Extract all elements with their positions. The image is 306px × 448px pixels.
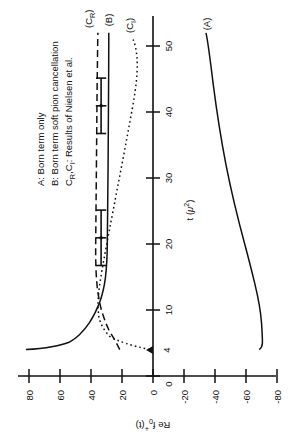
y-tick-label: 40 [86,390,97,401]
curve-label-CI: (CI) [124,18,138,33]
y-axis-title-post: (t) [136,420,145,431]
x-tick-label: 50 [163,41,174,52]
curve-label-B: (B) [103,14,114,27]
x-tick-label: 20 [163,239,174,250]
legend-line-3-sub-r: R [68,174,77,179]
legend-line-3-prefix: C [63,179,74,186]
x-axis-title-main: t ( [184,211,195,220]
curve-label-CI-open: (C [124,23,135,33]
legend-line-3: CR,CI: Results of Nielsen et al. [63,57,77,186]
legend-line-2: B: Born term soft pion cancellation [49,41,60,186]
y-tick-label: -20 [179,390,190,404]
y-axis-title-pre: Re f [153,420,171,431]
curve-label-A: (A) [201,18,212,31]
x-axis-title-close: ) [184,200,195,203]
figure-page: 80 60 40 20 0 -20 -40 -60 -80 Re f0+(t) [0,0,306,448]
y-axis-title: Re f0+(t) [136,417,171,433]
curve-A [206,33,262,350]
x-tick-label: 40 [163,107,174,118]
x-tick-label: 0 [163,381,174,386]
legend-line-3-sub-i: I [68,162,77,164]
x-axis-tick-labels: 0 10 20 30 40 50 [163,41,174,387]
rotated-figure-container: 80 60 40 20 0 -20 -40 -60 -80 Re f0+(t) [0,0,306,448]
threshold-marker-label: 4 [161,347,172,352]
curve-label-CR: (CR) [83,10,97,28]
y-tick-label: 80 [24,390,35,401]
y-tick-label: -60 [241,390,252,404]
curve-label-CR-close: ) [83,10,94,13]
y-tick-label: 60 [55,390,66,401]
curve-label-CI-sub: I [129,21,138,23]
curve-CI [98,39,150,349]
svg-text:t (μ2): t (μ2) [183,200,195,221]
y-tick-label: -40 [210,390,221,404]
curve-label-CR-sub: R [88,13,97,18]
curve-label-CI-close: ) [124,18,135,21]
svg-text:Re f0+(t): Re f0+(t) [136,417,171,433]
svg-text:(CR): (CR) [83,10,97,28]
y-axis-tick-labels: 80 60 40 20 0 -20 -40 -60 -80 [24,390,283,404]
plot-canvas: 80 60 40 20 0 -20 -40 -60 -80 Re f0+(t) [0,0,306,448]
svg-text:(CI): (CI) [124,18,138,33]
x-tick-label: 30 [163,173,174,184]
y-tick-label: 0 [148,390,159,395]
legend-line-1: A: Born term only [35,112,46,186]
curve-label-CR-open: (C [83,18,94,28]
x-tick-label: 10 [163,305,174,316]
y-tick-label: -80 [272,390,283,404]
legend-block: A: Born term only B: Born term soft pion… [35,41,77,186]
legend-line-3-rest: : Results of Nielsen et al. [63,57,74,162]
x-axis-title: t (μ2) [183,200,195,221]
x-axis-title-mu: μ [184,206,195,213]
threshold-marker: 4 [146,346,172,354]
y-tick-label: 20 [117,390,128,401]
x-axis-title-sup: 2 [183,203,190,207]
legend-line-3-mid: ,C [63,164,74,174]
